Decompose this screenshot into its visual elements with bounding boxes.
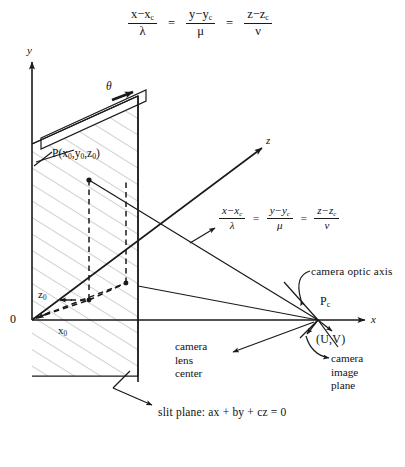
camera-optic-axis-label: camera optic axis xyxy=(311,265,393,277)
x0-label: x0 xyxy=(58,324,67,338)
camera-lens-center-line-1: camera xyxy=(175,340,207,354)
equals-sign: = xyxy=(245,212,266,224)
top-equation-term-1: x−xc λ xyxy=(128,8,157,38)
x-axis-label: x xyxy=(371,313,376,325)
equals-sign: = xyxy=(215,16,244,31)
equals-sign: = xyxy=(157,16,186,31)
inner-equation-term-1: x−xc λ xyxy=(219,205,245,232)
slit-plane-shape xyxy=(32,90,146,382)
theta-label: θ xyxy=(106,80,112,92)
camera-lens-center-label: camera lens center xyxy=(175,340,207,381)
origin-label: 0 xyxy=(10,312,16,327)
top-equation: x−xc λ = y−yc μ = z−zc ν xyxy=(128,8,272,38)
camera-image-plane-line-3: plane xyxy=(331,379,363,393)
camera-image-plane-label: camera image plane xyxy=(331,352,363,393)
leader-inner-equation xyxy=(190,228,215,243)
camera-image-plane-line-1: camera xyxy=(331,352,363,366)
inner-equation: x−xc λ = y−yc μ = z−zc ν xyxy=(219,205,339,232)
camera-image-plane-line-2: image xyxy=(331,366,363,380)
figure-canvas: x−xc λ = y−yc μ = z−zc ν x−xc λ = y−yc μ… xyxy=(0,0,405,467)
leader-optic-axis xyxy=(299,271,310,300)
camera-lens-center-line-3: center xyxy=(175,367,207,381)
camera-lens-center-line-2: lens xyxy=(175,354,207,368)
inner-equation-term-2: y−yc μ xyxy=(267,205,293,232)
slit-plane-caption: slit plane: ax + by + cz = 0 xyxy=(158,406,287,418)
pc-label: Pc xyxy=(320,294,330,309)
y-axis-label: y xyxy=(27,44,32,56)
inner-equation-term-3: z−zc ν xyxy=(314,205,339,232)
z0-label: z0 xyxy=(38,288,47,302)
uv-label: (U,V) xyxy=(316,332,345,347)
z-axis-label: z xyxy=(266,134,270,146)
top-equation-term-3: z−zc ν xyxy=(244,8,272,38)
top-equation-term-2: y−yc μ xyxy=(186,8,215,38)
point-p-label: P(x0,y0,z0) xyxy=(52,147,100,161)
equals-sign: = xyxy=(293,212,314,224)
diagram-vector-layer xyxy=(0,0,405,467)
